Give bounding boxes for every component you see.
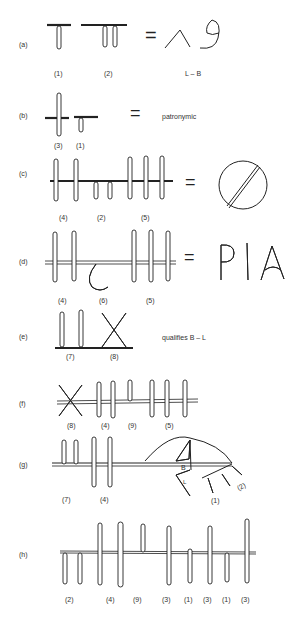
- ogham-diagram: [0, 0, 299, 621]
- glyph-h: [60, 519, 256, 587]
- glyph-a-1: [47, 25, 71, 49]
- glyph-f: [57, 380, 198, 418]
- glyph-g: [52, 437, 232, 487]
- glyph-a-2: [81, 25, 127, 47]
- glyph-b-3: [45, 93, 69, 136]
- glyph-e: [55, 310, 133, 348]
- figure-g-mounted-rider: [145, 437, 242, 496]
- result-c-circle-slash-glyph: [219, 161, 267, 209]
- glyph-b-1: [74, 117, 98, 132]
- result-d-pia-glyph: [221, 243, 284, 280]
- glyph-d: [45, 230, 176, 290]
- glyph-c: [50, 156, 173, 201]
- result-a-lambda-glyph: [165, 20, 219, 48]
